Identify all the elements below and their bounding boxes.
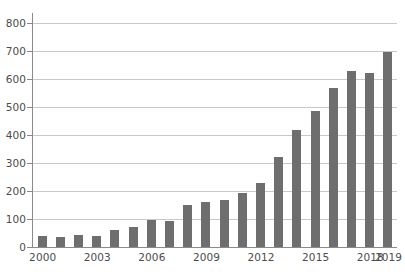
y-axis-tick-label: 200 [0,186,26,197]
bar [110,230,119,247]
bar [74,235,83,247]
y-axis-tick-mark [27,247,33,248]
x-axis-tick-label: 2003 [84,252,110,263]
bar [329,88,338,247]
y-axis-labels: 0100200300400500600700800 [0,0,26,276]
x-axis-labels: 20002003200620092012201520182019 [33,252,405,270]
y-axis-tick-label: 100 [0,214,26,225]
bar [383,52,392,247]
y-axis-tick-mark [27,23,33,24]
bar [147,220,156,247]
gridline [33,79,397,80]
x-axis-tick-label: 2000 [29,252,55,263]
x-axis-tick-label: 2015 [302,252,328,263]
x-axis-tick-label: 2012 [248,252,274,263]
y-axis-tick-mark [27,163,33,164]
bar [347,71,356,247]
y-axis-tick-mark [27,135,33,136]
y-axis-tick-mark [27,107,33,108]
y-axis-tick-label: 700 [0,46,26,57]
y-axis-tick-label: 400 [0,130,26,141]
gridline [33,191,397,192]
bar [92,236,101,247]
y-axis-tick-label: 500 [0,102,26,113]
bar [201,202,210,247]
y-axis-tick-label: 0 [0,242,26,253]
gridline [33,163,397,164]
x-axis-tick-label: 2009 [193,252,219,263]
bar [129,227,138,247]
x-axis-tick-label: 2019 [375,252,401,263]
gridline [33,135,397,136]
bar [38,236,47,247]
y-axis-tick-label: 300 [0,158,26,169]
gridline [33,107,397,108]
y-axis-tick-mark [27,79,33,80]
bar [311,111,320,247]
y-axis-tick-label: 600 [0,74,26,85]
x-axis-line [33,247,397,248]
y-axis-tick-mark [27,191,33,192]
bar [220,200,229,247]
bar [256,183,265,247]
bar [56,237,65,247]
y-axis-tick-mark [27,219,33,220]
x-axis-tick-label: 2006 [138,252,164,263]
bar [365,73,374,247]
bar [183,205,192,247]
y-axis-tick-label: 800 [0,18,26,29]
gridline [33,219,397,220]
bar [292,130,301,247]
bar [274,157,283,247]
plot-area [33,23,397,247]
gridline [33,23,397,24]
bar-chart: 0100200300400500600700800 20002003200620… [0,0,405,276]
bar [165,221,174,247]
y-axis-tick-mark [27,51,33,52]
bar [238,193,247,247]
gridline [33,51,397,52]
